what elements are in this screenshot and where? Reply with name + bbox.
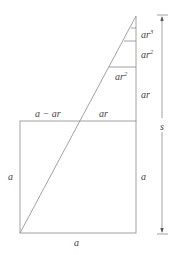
label-a-minus-ar: a − ar bbox=[35, 108, 61, 119]
arrowhead-down-icon bbox=[160, 228, 163, 233]
square bbox=[20, 121, 136, 233]
label-s: s bbox=[160, 121, 164, 132]
label-a-right: a bbox=[141, 171, 146, 182]
diagonal-line bbox=[20, 16, 136, 233]
arrowhead-up-icon bbox=[160, 16, 163, 21]
label-ar2-inner: ar2 bbox=[115, 70, 128, 82]
label-ar3: ar3 bbox=[141, 28, 154, 40]
label-ar2-vertical: ar2 bbox=[141, 48, 154, 60]
geometric-series-diagram: s ar3 ar2 ar2 ar a − ar ar a a a bbox=[0, 0, 177, 255]
label-ar-top: ar bbox=[99, 108, 108, 119]
label-ar-vertical: ar bbox=[141, 89, 150, 100]
label-a-left: a bbox=[8, 171, 13, 182]
label-a-bottom: a bbox=[74, 237, 79, 248]
